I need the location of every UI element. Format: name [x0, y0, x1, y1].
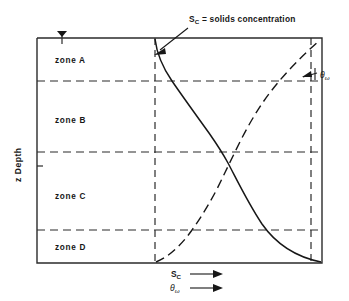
theta-omega-curve	[156, 40, 320, 262]
zone-label-a: zone A	[55, 56, 86, 65]
zone-label-d: zone D	[55, 243, 86, 252]
depth-profile-diagram: SC = solids concentration θω zone A zone…	[0, 0, 349, 301]
bottom-arrow-theta	[190, 284, 223, 292]
solids-concentration-curve	[155, 39, 321, 262]
theta-omega-label: θω	[320, 70, 330, 81]
zone-label-c: zone C	[55, 192, 86, 201]
y-axis-label: z Depth	[13, 147, 23, 182]
figure-container: SC = solids concentration θω zone A zone…	[0, 0, 349, 301]
theta-omega-callout-leader	[302, 68, 317, 80]
sc-callout-text: SC = solids concentration	[189, 14, 296, 25]
sc-callout-leader	[154, 28, 188, 55]
bottom-axis-label-theta: θω	[170, 283, 180, 294]
bottom-axis-label-sc: SC	[171, 269, 182, 280]
zone-label-b: zone B	[55, 116, 86, 125]
plot-frame	[37, 38, 322, 263]
bottom-arrow-sc	[190, 270, 223, 278]
